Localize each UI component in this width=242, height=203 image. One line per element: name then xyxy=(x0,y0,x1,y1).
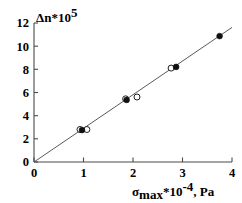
y-axis-tick-labels: 0 2 4 6 8 10 12 xyxy=(17,16,30,169)
y-axis-title: Δn*105 xyxy=(36,5,78,25)
data-point-filled xyxy=(173,64,179,70)
linear-fit-line xyxy=(34,27,232,162)
x-tick-label-1: 1 xyxy=(80,166,86,180)
x-axis-title-suffix: , Pa xyxy=(193,184,214,199)
chart-container: Δn*105 0 2 4 6 8 10 12 xyxy=(0,0,242,203)
data-point-filled xyxy=(124,97,130,103)
y-tick-label-2: 2 xyxy=(23,132,29,146)
x-axis-title-mid: *10 xyxy=(163,184,183,199)
y-tick-label-6: 6 xyxy=(23,86,29,100)
scatter-plot: Δn*105 0 2 4 6 8 10 12 xyxy=(0,0,242,203)
x-axis-title-exponent: -4 xyxy=(182,179,193,194)
x-axis-title: σmax*10-4, Pa xyxy=(132,179,215,202)
x-axis-title-symbol: σ xyxy=(132,184,139,199)
x-axis-tick-labels: 0 1 2 3 4 xyxy=(31,166,236,180)
x-axis-title-subscript: max xyxy=(139,187,163,202)
y-tick-label-8: 8 xyxy=(23,63,29,77)
data-point-open xyxy=(134,94,140,100)
x-axis-ticks xyxy=(34,158,232,163)
y-axis-ticks xyxy=(34,23,38,162)
y-tick-label-12: 12 xyxy=(17,16,30,30)
x-tick-label-2: 2 xyxy=(130,166,136,180)
y-axis-title-base: Δn*10 xyxy=(36,10,71,25)
y-tick-label-10: 10 xyxy=(17,40,30,54)
x-tick-label-4: 4 xyxy=(229,166,236,180)
data-point-filled xyxy=(79,127,85,133)
data-point-filled xyxy=(217,33,223,39)
y-axis-title-exponent: 5 xyxy=(71,5,78,20)
y-tick-label-4: 4 xyxy=(23,109,30,123)
x-tick-label-3: 3 xyxy=(179,166,185,180)
y-tick-label-0: 0 xyxy=(23,155,29,169)
x-tick-label-0: 0 xyxy=(31,166,37,180)
